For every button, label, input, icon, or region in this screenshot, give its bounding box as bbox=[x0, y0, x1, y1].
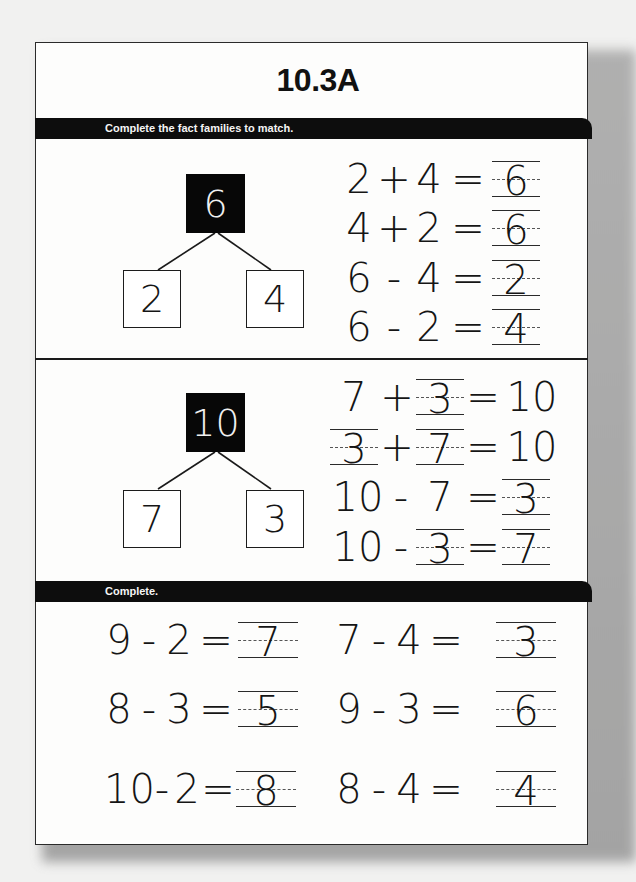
equals-sign: = bbox=[444, 156, 492, 202]
subtraction-problem: 8 - 4 = 4 bbox=[334, 769, 556, 809]
answer-blank[interactable]: 2 bbox=[492, 260, 540, 296]
answer-blank[interactable]: 6 bbox=[492, 161, 540, 197]
number-bond-part: 3 bbox=[246, 490, 304, 548]
equals-sign: = bbox=[424, 617, 468, 663]
answer-value: 4 bbox=[503, 306, 528, 352]
answer-blank[interactable]: 3 bbox=[416, 529, 464, 565]
operator: - bbox=[364, 766, 394, 812]
operator: - bbox=[150, 766, 174, 812]
operand: 4 bbox=[394, 766, 424, 812]
operand: 7 bbox=[334, 617, 364, 663]
answer-value: 7 bbox=[513, 526, 538, 572]
operator: - bbox=[374, 304, 414, 350]
operand: 6 bbox=[344, 304, 374, 350]
operator: + bbox=[374, 205, 414, 251]
equals-sign: = bbox=[464, 374, 502, 420]
operator: + bbox=[374, 156, 414, 202]
answer-blank[interactable]: 7 bbox=[416, 429, 464, 465]
equation-row: 4 + 2 = 6 bbox=[344, 208, 540, 248]
equals-sign: = bbox=[464, 474, 502, 520]
equals-sign: = bbox=[464, 424, 502, 470]
answer-blank[interactable]: 6 bbox=[492, 210, 540, 246]
operand: 7 bbox=[330, 374, 378, 420]
operand: 4 bbox=[394, 617, 424, 663]
answer-blank[interactable]: 6 bbox=[496, 691, 556, 727]
operand: 2 bbox=[414, 205, 444, 251]
subtraction-problem: 10 - 2 = 8 bbox=[104, 769, 296, 809]
operand: 9 bbox=[334, 686, 364, 732]
equals-sign: = bbox=[444, 304, 492, 350]
operand: 3 bbox=[164, 686, 194, 732]
equals-sign: = bbox=[424, 686, 468, 732]
equation-row: 2 + 4 = 6 bbox=[344, 159, 540, 199]
operand: 4 bbox=[414, 156, 444, 202]
answer-blank[interactable]: 8 bbox=[236, 771, 296, 807]
operator: + bbox=[378, 424, 416, 470]
number-bond-whole: 10 bbox=[186, 393, 245, 452]
answer-blank[interactable]: 7 bbox=[502, 529, 550, 565]
subtraction-problem: 9 - 3 = 6 bbox=[334, 689, 556, 729]
answer-value: 3 bbox=[513, 476, 538, 522]
answer-value: 3 bbox=[427, 376, 452, 422]
operand: 4 bbox=[344, 205, 374, 251]
operand: 2 bbox=[174, 766, 200, 812]
number-bond-part: 7 bbox=[123, 490, 181, 548]
answer-value: 4 bbox=[513, 768, 538, 814]
section-header-complete: Complete. bbox=[35, 581, 592, 602]
operator: - bbox=[134, 686, 164, 732]
equation-row: 10 - 3 = 7 bbox=[330, 527, 550, 567]
section-header-fact-families: Complete the fact families to match. bbox=[35, 118, 592, 139]
operator: - bbox=[386, 524, 416, 570]
answer-blank[interactable]: 4 bbox=[492, 309, 540, 345]
answer-blank[interactable]: 3 bbox=[330, 429, 378, 465]
answer-value: 5 bbox=[255, 688, 280, 734]
instruction-text: Complete. bbox=[105, 585, 158, 597]
answer-value: 6 bbox=[503, 207, 528, 253]
answer-blank[interactable]: 3 bbox=[502, 479, 550, 515]
number-bond-whole: 6 bbox=[186, 174, 245, 233]
section-divider bbox=[35, 358, 588, 360]
equation-row: 6 - 2 = 4 bbox=[344, 307, 540, 347]
operator: - bbox=[134, 617, 164, 663]
operand: 10 bbox=[104, 766, 150, 812]
answer-blank[interactable]: 3 bbox=[496, 622, 556, 658]
operand: 3 bbox=[394, 686, 424, 732]
answer-blank[interactable]: 3 bbox=[416, 379, 464, 415]
answer-value: 3 bbox=[341, 426, 366, 472]
equation-row: 6 - 4 = 2 bbox=[344, 258, 540, 298]
operand: 6 bbox=[344, 255, 374, 301]
equation-row: 3 + 7 = 10 bbox=[330, 427, 562, 467]
operand: 7 bbox=[416, 474, 464, 520]
answer-blank[interactable]: 4 bbox=[496, 771, 556, 807]
result-value: 10 bbox=[502, 424, 562, 470]
operator: - bbox=[364, 686, 394, 732]
subtraction-problem: 7 - 4 = 3 bbox=[334, 620, 556, 660]
operand: 10 bbox=[330, 524, 386, 570]
answer-value: 7 bbox=[255, 619, 280, 665]
answer-blank[interactable]: 5 bbox=[238, 691, 298, 727]
operand: 2 bbox=[414, 304, 444, 350]
operator: - bbox=[386, 474, 416, 520]
answer-value: 3 bbox=[513, 619, 538, 665]
subtraction-problem: 8 - 3 = 5 bbox=[104, 689, 298, 729]
operator: - bbox=[364, 617, 394, 663]
operand: 8 bbox=[104, 686, 134, 732]
equals-sign: = bbox=[194, 686, 238, 732]
equals-sign: = bbox=[444, 255, 492, 301]
equals-sign: = bbox=[424, 766, 468, 812]
equation-row: 10 - 7 = 3 bbox=[330, 477, 550, 517]
equals-sign: = bbox=[444, 205, 492, 251]
answer-value: 6 bbox=[513, 688, 538, 734]
equals-sign: = bbox=[200, 766, 236, 812]
worksheet-title: 10.3A bbox=[0, 62, 636, 99]
operand: 10 bbox=[330, 474, 386, 520]
operator: - bbox=[374, 255, 414, 301]
answer-value: 3 bbox=[427, 526, 452, 572]
answer-blank[interactable]: 7 bbox=[238, 622, 298, 658]
operator: + bbox=[378, 374, 416, 420]
answer-value: 2 bbox=[503, 257, 528, 303]
instruction-text: Complete the fact families to match. bbox=[105, 122, 293, 134]
number-bond-part: 2 bbox=[123, 270, 181, 328]
result-value: 10 bbox=[502, 374, 562, 420]
operand: 9 bbox=[104, 617, 134, 663]
